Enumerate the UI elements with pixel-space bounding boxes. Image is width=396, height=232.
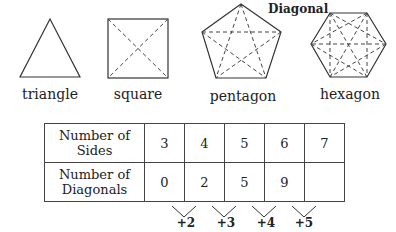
diagonals-row: Number of Diagonals 0 2 5 9 xyxy=(45,163,345,202)
increment-label: +5 xyxy=(295,216,313,230)
diagonals-cell: 2 xyxy=(185,163,225,202)
pentagon-label: pentagon xyxy=(210,88,277,104)
diagonals-cell: 0 xyxy=(145,163,185,202)
diagonal-annotation: Diagonal xyxy=(268,2,328,16)
row-header-sides: Number of Sides xyxy=(45,124,145,163)
sides-cell: 4 xyxy=(185,124,225,163)
triangle-label: triangle xyxy=(22,86,78,102)
diagonals-cell: 9 xyxy=(265,163,305,202)
sides-row: Number of Sides 3 4 5 6 7 xyxy=(45,124,345,163)
sides-cell: 3 xyxy=(145,124,185,163)
increment-label: +2 xyxy=(177,216,195,230)
sides-cell: 5 xyxy=(225,124,265,163)
diagonals-cell-empty xyxy=(305,163,345,202)
increment-label: +4 xyxy=(257,216,275,230)
sides-cell: 7 xyxy=(305,124,345,163)
sides-diagonals-table: Number of Sides 3 4 5 6 7 Number of Diag… xyxy=(44,123,345,202)
square-shape xyxy=(108,19,168,78)
triangle-shape xyxy=(20,19,80,77)
hexagon-label: hexagon xyxy=(320,86,380,102)
row-header-diagonals: Number of Diagonals xyxy=(45,163,145,202)
increment-label: +3 xyxy=(217,216,235,230)
sides-cell: 6 xyxy=(265,124,305,163)
square-label: square xyxy=(114,86,163,102)
diagonals-cell: 5 xyxy=(225,163,265,202)
hexagon-shape xyxy=(311,13,386,77)
